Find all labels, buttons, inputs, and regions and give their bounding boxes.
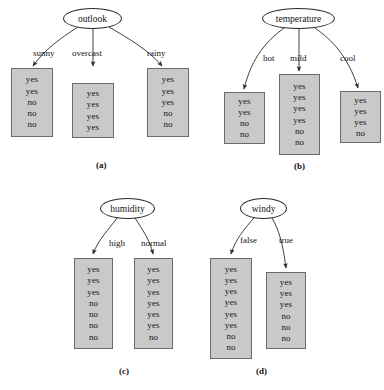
- leaf-value: yes: [87, 275, 99, 286]
- edge-label-normal: normal: [141, 238, 167, 248]
- leaf-value: yes: [238, 107, 250, 118]
- leaf-value: yes: [293, 81, 305, 92]
- node-temperature[interactable]: temperature: [262, 8, 335, 29]
- leaf-value: yes: [225, 275, 237, 286]
- leaf-box-overcast: yes yes yes yes: [72, 83, 114, 138]
- leaf-value: yes: [147, 264, 159, 275]
- leaf-box-hot: yes yes no no: [224, 92, 265, 144]
- leaf-value: no: [281, 322, 290, 333]
- leaf-value: yes: [162, 97, 174, 108]
- leaf-box-normal: yes yes yes yes yes yes no: [134, 258, 173, 349]
- leaf-value: yes: [147, 287, 159, 298]
- leaf-value: yes: [147, 320, 159, 331]
- leaf-value: yes: [225, 297, 237, 308]
- leaf-value: no: [89, 298, 98, 309]
- leaf-value: yes: [238, 96, 250, 107]
- leaf-value: no: [226, 342, 235, 353]
- leaf-value: yes: [225, 286, 237, 297]
- leaf-value: yes: [87, 287, 99, 298]
- leaf-value: yes: [354, 117, 366, 128]
- leaf-value: yes: [87, 111, 99, 122]
- leaf-value: yes: [280, 288, 292, 299]
- leaf-value: no: [27, 97, 36, 108]
- leaf-value: no: [163, 108, 172, 119]
- panel-c-caption: (c): [119, 366, 129, 376]
- leaf-value: yes: [87, 264, 99, 275]
- leaf-value: no: [240, 129, 249, 140]
- leaf-value: no: [27, 108, 36, 119]
- node-outlook[interactable]: outlook: [63, 8, 122, 29]
- leaf-box-sunny: yes yes no no no: [11, 68, 53, 137]
- leaf-box-cool: yes yes yes no: [340, 91, 381, 143]
- leaf-value: yes: [354, 106, 366, 117]
- panel-b-caption: (b): [294, 161, 305, 171]
- leaf-value: yes: [293, 103, 305, 114]
- edge-label-cool: cool: [340, 53, 356, 63]
- panel-a-edges: [33, 27, 162, 66]
- leaf-value: yes: [162, 86, 174, 97]
- leaf-value: yes: [147, 298, 159, 309]
- leaf-box-high: yes yes yes no no no no: [74, 258, 113, 349]
- leaf-value: yes: [293, 115, 305, 126]
- leaf-box-true: yes yes yes no no no: [266, 272, 306, 349]
- leaf-box-rainy: yes yes yes no no: [147, 68, 189, 137]
- panel-c-edges: [93, 218, 153, 254]
- edge-label-hot: hot: [263, 53, 275, 63]
- edge-label-false: false: [240, 235, 257, 245]
- edge-label-mild: mild: [290, 53, 307, 63]
- node-temperature-label: temperature: [276, 14, 321, 24]
- node-windy[interactable]: windy: [240, 198, 287, 219]
- leaf-value: yes: [147, 309, 159, 320]
- leaf-value: yes: [280, 299, 292, 310]
- leaf-value: yes: [225, 320, 237, 331]
- node-windy-label: windy: [252, 204, 276, 214]
- leaf-value: no: [295, 137, 304, 148]
- node-humidity[interactable]: humidity: [100, 198, 155, 219]
- leaf-value: no: [163, 119, 172, 130]
- leaf-value: yes: [354, 95, 366, 106]
- leaf-box-false: yes yes yes yes yes yes no no: [210, 258, 252, 359]
- leaf-value: no: [295, 126, 304, 137]
- leaf-value: no: [89, 309, 98, 320]
- leaf-value: no: [281, 311, 290, 322]
- leaf-value: yes: [162, 74, 174, 85]
- node-humidity-label: humidity: [110, 204, 144, 214]
- leaf-value: no: [149, 332, 158, 343]
- leaf-value: no: [89, 320, 98, 331]
- leaf-value: no: [356, 128, 365, 139]
- leaf-value: yes: [225, 264, 237, 275]
- leaf-value: no: [226, 331, 235, 342]
- leaf-value: no: [281, 333, 290, 344]
- edge-label-sunny: sunny: [33, 48, 55, 58]
- leaf-value: no: [27, 119, 36, 130]
- leaf-box-mild: yes yes yes yes no no: [279, 74, 320, 155]
- leaf-value: yes: [26, 74, 38, 85]
- edge-label-true: true: [279, 235, 293, 245]
- leaf-value: no: [240, 118, 249, 129]
- decision-stump-figure: outlook sunny overcast rainy yes yes no …: [0, 0, 384, 390]
- panel-d-caption: (d): [256, 366, 267, 376]
- leaf-value: yes: [26, 86, 38, 97]
- panel-a-caption: (a): [96, 160, 107, 170]
- edge-label-rainy: rainy: [147, 48, 166, 58]
- leaf-value: yes: [225, 309, 237, 320]
- leaf-value: yes: [280, 277, 292, 288]
- leaf-value: yes: [87, 88, 99, 99]
- leaf-value: yes: [87, 99, 99, 110]
- leaf-value: no: [89, 332, 98, 343]
- tree-edges: [0, 0, 384, 390]
- edge-label-overcast: overcast: [72, 48, 102, 58]
- leaf-value: yes: [147, 275, 159, 286]
- node-outlook-label: outlook: [78, 14, 107, 24]
- leaf-value: yes: [293, 92, 305, 103]
- leaf-value: yes: [87, 122, 99, 133]
- edge-label-high: high: [109, 238, 125, 248]
